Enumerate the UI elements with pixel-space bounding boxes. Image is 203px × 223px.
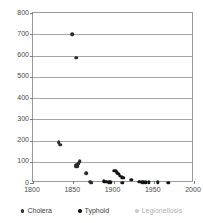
plot-area <box>32 12 193 182</box>
data-point-typhoid <box>147 180 150 183</box>
y-tick-label: 600 <box>3 51 29 58</box>
data-point-typhoid <box>109 181 112 184</box>
data-point-cholera <box>59 143 63 147</box>
y-tick-label: 100 <box>3 157 29 164</box>
legend-marker-icon <box>78 209 82 213</box>
data-point-cholera <box>78 159 82 163</box>
legend-marker-icon <box>135 209 139 213</box>
x-tick-mark <box>33 181 34 184</box>
y-tick-label: 400 <box>3 94 29 101</box>
x-tick-label: 1800 <box>17 186 47 193</box>
y-tick-label: 700 <box>3 30 29 37</box>
x-tick-mark <box>194 181 195 184</box>
data-point-typhoid <box>156 180 159 183</box>
legend-item-typhoid[interactable]: Typhoid <box>78 207 109 215</box>
gridline <box>33 34 192 35</box>
y-tick-mark <box>30 13 33 14</box>
data-point-typhoid <box>167 181 170 184</box>
y-tick-mark <box>30 34 33 35</box>
legend-item-legionellosis[interactable]: Legionellosis <box>135 207 182 215</box>
gridline <box>33 162 192 163</box>
scatter-chart: 0100200300400500600700800 18001850190019… <box>0 0 203 223</box>
data-point-typhoid <box>130 178 133 181</box>
x-tick-mark <box>114 181 115 184</box>
legend-label: Cholera <box>27 207 52 215</box>
data-point-cholera <box>84 172 88 176</box>
data-point-typhoid <box>121 181 124 184</box>
y-tick-mark <box>30 141 33 142</box>
y-tick-label: 0 <box>3 179 29 186</box>
y-tick-label: 300 <box>3 115 29 122</box>
y-tick-mark <box>30 98 33 99</box>
gridline <box>33 56 192 57</box>
y-tick-label: 200 <box>3 136 29 143</box>
x-tick-label: 1900 <box>98 186 128 193</box>
data-point-typhoid <box>121 176 124 179</box>
y-tick-mark <box>30 56 33 57</box>
x-tick-label: 1850 <box>57 186 87 193</box>
legend-marker-icon <box>21 209 25 213</box>
legend-label: Typhoid <box>85 207 110 215</box>
data-point-cholera <box>89 181 93 185</box>
gridline <box>33 119 192 120</box>
data-point-cholera <box>71 32 75 36</box>
x-tick-mark <box>154 181 155 184</box>
y-tick-mark <box>30 162 33 163</box>
data-point-cholera <box>75 56 79 60</box>
legend-item-cholera[interactable]: Cholera <box>21 207 52 215</box>
x-tick-label: 1950 <box>138 186 168 193</box>
gridline <box>33 98 192 99</box>
y-tick-mark <box>30 119 33 120</box>
y-tick-label: 800 <box>3 9 29 16</box>
x-tick-label: 2000 <box>178 186 203 193</box>
y-tick-label: 500 <box>3 72 29 79</box>
y-tick-mark <box>30 77 33 78</box>
gridline <box>33 77 192 78</box>
chart-legend: CholeraTyphoidLegionellosis <box>0 203 203 219</box>
legend-label: Legionellosis <box>142 207 182 215</box>
x-tick-mark <box>73 181 74 184</box>
